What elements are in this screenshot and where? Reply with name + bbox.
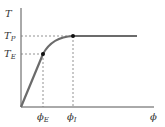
point-e — [41, 52, 45, 56]
point-i — [71, 34, 75, 38]
diagram-canvas: T TP TE ϕE ϕI ϕ — [0, 0, 165, 127]
phi-i-label: ϕI — [67, 111, 77, 124]
temperature-curve — [21, 36, 137, 107]
tp-label: TP — [4, 30, 16, 43]
y-axis-label: T — [5, 8, 13, 19]
phi-e-label: ϕE — [37, 111, 49, 124]
te-label: TE — [4, 48, 16, 61]
x-axis-label: ϕ — [150, 111, 157, 122]
